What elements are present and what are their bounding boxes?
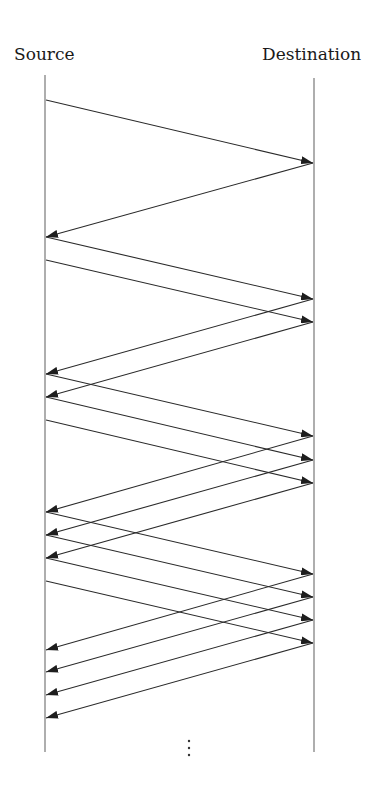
packet-arrow-0: [46, 100, 313, 163]
ack-arrow-5: [46, 322, 313, 397]
packet-arrow-7: [46, 397, 313, 460]
sequence-diagram: [0, 0, 387, 792]
ellipsis-dot: [188, 740, 190, 742]
packet-arrow-14: [46, 558, 313, 620]
ack-arrow-4: [46, 299, 313, 374]
packet-arrow-2: [46, 237, 313, 299]
lifelines: [45, 75, 314, 752]
continuation-ellipsis: [188, 740, 190, 756]
packet-arrow-12: [46, 512, 313, 574]
ack-arrow-11: [46, 483, 313, 558]
ellipsis-dot: [188, 754, 190, 756]
ack-arrow-18: [46, 620, 313, 695]
ack-arrow-17: [46, 597, 313, 672]
packet-arrow-13: [46, 535, 313, 597]
messages: [46, 100, 313, 718]
ellipsis-dot: [188, 747, 190, 749]
ack-arrow-10: [46, 460, 313, 535]
ack-arrow-16: [46, 574, 313, 650]
packet-arrow-3: [46, 260, 313, 322]
packet-arrow-6: [46, 374, 313, 436]
ack-arrow-1: [46, 163, 313, 237]
ack-arrow-19: [46, 643, 313, 718]
